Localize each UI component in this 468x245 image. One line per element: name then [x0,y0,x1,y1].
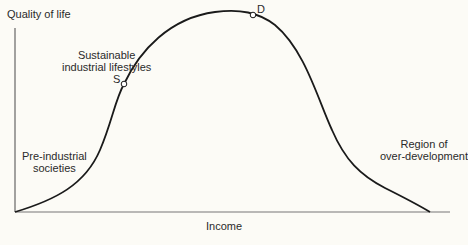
annotation-line: industrial lifestyles [62,61,151,73]
quality-curve [15,11,430,212]
annotation-preindustrial: Pre-industrial societies [22,150,87,174]
annotation-line: Pre-industrial [22,150,87,162]
annotation-sustainable: Sustainable industrial lifestyles [62,49,151,73]
point-d-label: D [257,3,265,15]
annotation-line: Region of [380,138,468,150]
annotation-line: over-development [380,150,468,162]
point-s-marker [121,81,127,87]
point-s-label: S [113,73,120,85]
x-axis-label: Income [206,220,242,232]
annotation-line: societies [22,162,87,174]
annotation-line: Sustainable [62,49,151,61]
point-d-marker [250,12,256,18]
y-axis-label: Quality of life [7,8,71,20]
annotation-overdevelopment: Region of over-development [380,138,468,162]
